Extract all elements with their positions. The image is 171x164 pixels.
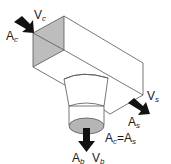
svg-text:Vb: Vb: [92, 151, 105, 164]
branch-area-label: A: [72, 151, 80, 164]
svg-text:As: As: [128, 115, 140, 130]
svg-text:Vs: Vs: [147, 89, 159, 104]
inlet-arrow-icon: [14, 16, 34, 33]
inlet-velocity-label: V: [34, 8, 42, 22]
branch-velocity-label: V: [92, 151, 100, 164]
inlet-area-label: A: [6, 29, 14, 43]
duct-branch-diagram: Vc Ac Vs As Ac=As Ab Vb: [0, 0, 171, 164]
svg-text:Ab: Ab: [72, 151, 85, 164]
area-equation: Ac=As: [105, 131, 136, 146]
outlet-velocity-label: V: [147, 89, 155, 103]
svg-text:Vc: Vc: [34, 8, 46, 23]
outlet-area-label: A: [128, 115, 136, 129]
branch-cylinder: [64, 74, 108, 134]
svg-text:Ac: Ac: [6, 29, 18, 44]
